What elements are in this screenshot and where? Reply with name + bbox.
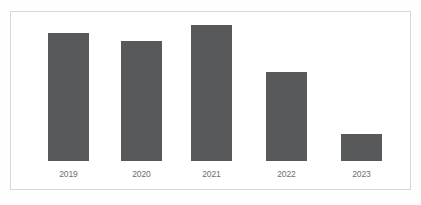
bar-rect-2022[interactable] bbox=[266, 72, 307, 161]
category-label-2019: 2019 bbox=[40, 169, 97, 179]
bar-rect-2023[interactable] bbox=[341, 134, 382, 161]
bar-rect-2021[interactable] bbox=[191, 25, 232, 161]
category-label-2020: 2020 bbox=[113, 169, 170, 179]
category-label-2022: 2022 bbox=[258, 169, 315, 179]
bar-chart-figure: 3,92 2019 3,68 2020 4,17 2021 2,73 2022 bbox=[0, 0, 421, 205]
bar-rect-2019[interactable] bbox=[48, 33, 89, 161]
bar-rect-2020[interactable] bbox=[121, 41, 162, 161]
chart-frame-border: 3,92 2019 3,68 2020 4,17 2021 2,73 2022 bbox=[10, 11, 411, 190]
category-label-2023: 2023 bbox=[333, 169, 390, 179]
plot-area: 3,92 2019 3,68 2020 4,17 2021 2,73 2022 bbox=[11, 12, 412, 191]
category-label-2021: 2021 bbox=[183, 169, 240, 179]
